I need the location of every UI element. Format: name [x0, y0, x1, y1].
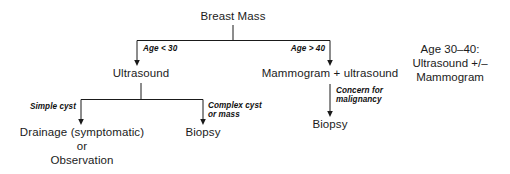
edge-label-concern-line2: malignancy [336, 95, 382, 105]
node-ultrasound: Ultrasound [113, 67, 170, 81]
node-biopsy-left: Biopsy [185, 126, 220, 140]
node-mammogram-ultrasound: Mammogram + ultrasound [262, 67, 399, 81]
side-note-line2: Ultrasound +/– [412, 56, 487, 70]
node-drainage-line1: Drainage (symptomatic) [20, 126, 144, 140]
flowchart-canvas: Breast Mass Age < 30 Age > 40 Ultrasound… [0, 0, 510, 174]
node-drainage-line2: or [77, 140, 87, 154]
edge-label-age-over-40: Age > 40 [291, 44, 325, 54]
node-breast-mass: Breast Mass [200, 10, 265, 24]
node-biopsy-right: Biopsy [312, 118, 347, 132]
edge-label-complex-cyst-line2: or mass [208, 110, 240, 120]
edge-label-age-under-30: Age < 30 [143, 44, 177, 54]
edge-label-simple-cyst: Simple cyst [30, 102, 76, 112]
side-note-line3: Mammogram [416, 70, 484, 84]
side-note-line1: Age 30–40: [421, 42, 480, 56]
node-drainage-line3: Observation [50, 154, 113, 168]
